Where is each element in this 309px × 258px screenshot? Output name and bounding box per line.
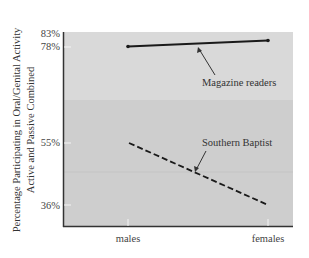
point <box>126 45 130 49</box>
plot-area-lower <box>63 100 293 226</box>
point <box>266 39 270 43</box>
ytick-36: 36% <box>41 200 61 211</box>
ytick-83: 83% <box>41 28 61 39</box>
label-magazine-readers: Magazine readers <box>202 77 276 88</box>
y-axis-subtitle: Active and Passive Combined <box>25 66 36 193</box>
y-axis-title: Percentage Participating in Oral/Genital… <box>11 27 22 232</box>
xtick-females: females <box>252 233 285 244</box>
label-southern-baptist: Southern Baptist <box>202 137 272 148</box>
plot-area-upper <box>63 32 293 100</box>
ytick-55: 55% <box>41 137 61 148</box>
xtick-males: males <box>116 233 141 244</box>
ytick-78: 78% <box>41 41 61 52</box>
line-chart: 83% 78% 55% 36% males females Percentage… <box>0 0 309 258</box>
